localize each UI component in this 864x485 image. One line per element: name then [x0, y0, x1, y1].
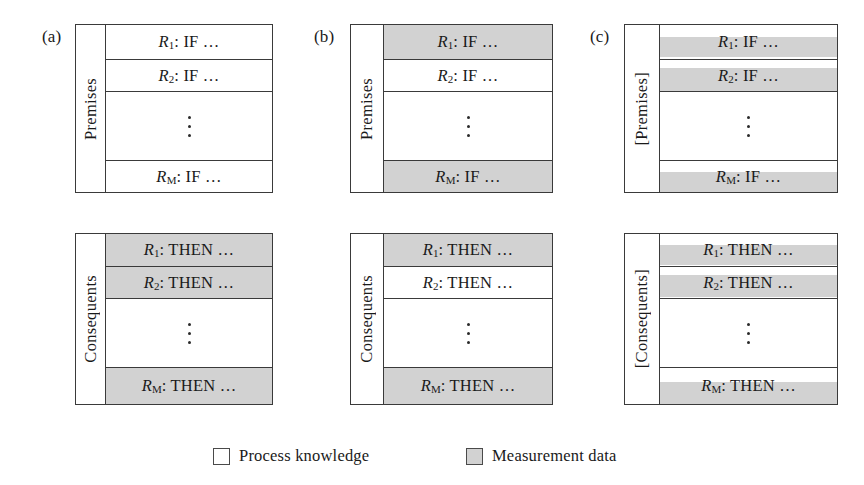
panel-a-label: (a) [42, 28, 61, 45]
vertical-ellipsis-icon [188, 323, 191, 344]
panel-a-consequents-rows: R1: THEN … R2: THEN … RM: THEN … [106, 234, 272, 404]
panel-c-premises-rows: R1: IF … R2: IF … RM: IF … [660, 25, 837, 192]
panel-b-premises-side-label: Premises [351, 25, 384, 192]
table-row: R1: THEN … [106, 234, 272, 267]
table-row: RM: IF … [106, 161, 272, 192]
panel-b-consequents-block: Consequents R1: THEN … R2: THEN … RM: TH… [350, 233, 553, 405]
panel-b-consequents-side-label-text: Consequents [357, 275, 377, 363]
table-row-ellipsis [106, 92, 272, 161]
table-row: R1: THEN … [384, 234, 552, 267]
table-row: R1: IF … [106, 25, 272, 60]
panel-c-premises-row-r1-text: R1: IF … [718, 32, 779, 52]
panel-c-premises-side-label: [Premises] [625, 25, 660, 192]
panel-a-consequents-row-r1-text: R1: THEN … [144, 240, 234, 260]
panel-b-premises-rows: R1: IF … R2: IF … RM: IF … [384, 25, 552, 192]
panel-c-consequents-row-rM-text: RM: THEN … [701, 376, 796, 396]
table-row: R1: IF … [384, 25, 552, 60]
table-row: R2: IF … [384, 60, 552, 92]
panel-a-premises-row-r2-text: R2: IF … [159, 66, 220, 86]
panel-c-consequents-rows: R1: THEN … R2: THEN … RM: THEN … [660, 234, 837, 404]
panel-c-premises-row-r2-text: R2: IF … [718, 66, 779, 86]
panel-b-premises-block: Premises R1: IF … R2: IF … RM: IF … [350, 24, 553, 193]
panel-b-consequents-row-rM-text: RM: THEN … [421, 376, 516, 396]
panel-a-premises-side-label-text: Premises [81, 78, 101, 140]
vertical-ellipsis-icon [747, 116, 750, 137]
table-row: R1: IF … [660, 25, 837, 60]
legend-swatch-white-icon [213, 448, 230, 465]
panel-c-consequents-block: [Consequents] R1: THEN … R2: THEN … [624, 233, 838, 405]
panel-c-premises-row-rM-text: RM: IF … [716, 167, 781, 187]
panel-b-label: (b) [314, 28, 334, 45]
vertical-ellipsis-icon [467, 116, 470, 137]
table-row: R2: THEN … [384, 267, 552, 299]
figure-canvas: (a) Premises R1: IF … R2: IF … R [0, 0, 864, 485]
panel-b: (b) Premises R1: IF … R2: IF … R [288, 0, 576, 420]
panel-a-consequents-side-label: Consequents [76, 234, 106, 404]
panel-a-consequents-row-r2-text: R2: THEN … [144, 273, 234, 293]
legend-label-measurement-data: Measurement data [492, 446, 617, 466]
panel-b-premises-side-label-text: Premises [357, 78, 377, 140]
table-row: RM: THEN … [384, 368, 552, 404]
panel-b-premises-row-rM-text: RM: IF … [435, 167, 500, 187]
panel-c: (c) [Premises] R1: IF … R2: IF … [576, 0, 864, 420]
panel-a-consequents-block: Consequents R1: THEN … R2: THEN … RM: TH… [75, 233, 273, 405]
table-row-ellipsis [660, 92, 837, 161]
panel-a-premises-row-rM-text: RM: IF … [156, 167, 221, 187]
panel-a-premises-block: Premises R1: IF … R2: IF … RM: IF … [75, 24, 273, 193]
legend-item-process-knowledge: Process knowledge [213, 446, 369, 466]
panel-a-consequents-side-label-text: Consequents [81, 275, 101, 363]
panel-c-consequents-row-r1-text: R1: THEN … [703, 240, 793, 260]
legend-label-process-knowledge: Process knowledge [239, 446, 369, 466]
table-row-ellipsis [106, 299, 272, 368]
panel-a: (a) Premises R1: IF … R2: IF … R [0, 0, 288, 420]
table-row: R2: IF … [106, 60, 272, 92]
panel-a-premises-row-r1-text: R1: IF … [159, 32, 220, 52]
table-row: RM: IF … [384, 161, 552, 192]
panel-b-premises-row-r1-text: R1: IF … [438, 32, 499, 52]
vertical-ellipsis-icon [747, 323, 750, 344]
table-row: RM: THEN … [660, 368, 837, 404]
legend-swatch-gray-icon [466, 448, 483, 465]
panel-b-premises-row-r2-text: R2: IF … [438, 66, 499, 86]
panel-c-consequents-side-label-text: [Consequents] [632, 269, 652, 368]
panel-c-premises-side-label-text: [Premises] [632, 72, 652, 146]
table-row: R2: THEN … [106, 267, 272, 299]
vertical-ellipsis-icon [467, 323, 470, 344]
table-row: R2: IF … [660, 60, 837, 92]
table-row: R2: THEN … [660, 267, 837, 299]
legend: Process knowledge Measurement data [0, 437, 864, 477]
panel-b-consequents-row-r1-text: R1: THEN … [423, 240, 513, 260]
panel-a-premises-rows: R1: IF … R2: IF … RM: IF … [106, 25, 272, 192]
legend-item-measurement-data: Measurement data [466, 446, 617, 466]
panel-c-consequents-side-label: [Consequents] [625, 234, 660, 404]
table-row-ellipsis [384, 92, 552, 161]
table-row: R1: THEN … [660, 234, 837, 267]
table-row: RM: THEN … [106, 368, 272, 404]
panel-b-consequents-row-r2-text: R2: THEN … [423, 273, 513, 293]
panel-b-consequents-rows: R1: THEN … R2: THEN … RM: THEN … [384, 234, 552, 404]
panel-a-premises-side-label: Premises [76, 25, 106, 192]
panel-c-premises-block: [Premises] R1: IF … R2: IF … [624, 24, 838, 193]
vertical-ellipsis-icon [188, 116, 191, 137]
table-row: RM: IF … [660, 161, 837, 192]
panel-a-consequents-row-rM-text: RM: THEN … [142, 376, 237, 396]
panel-c-label: (c) [590, 28, 609, 45]
table-row-ellipsis [384, 299, 552, 368]
table-row-ellipsis [660, 299, 837, 368]
panel-b-consequents-side-label: Consequents [351, 234, 384, 404]
panel-c-consequents-row-r2-text: R2: THEN … [703, 273, 793, 293]
